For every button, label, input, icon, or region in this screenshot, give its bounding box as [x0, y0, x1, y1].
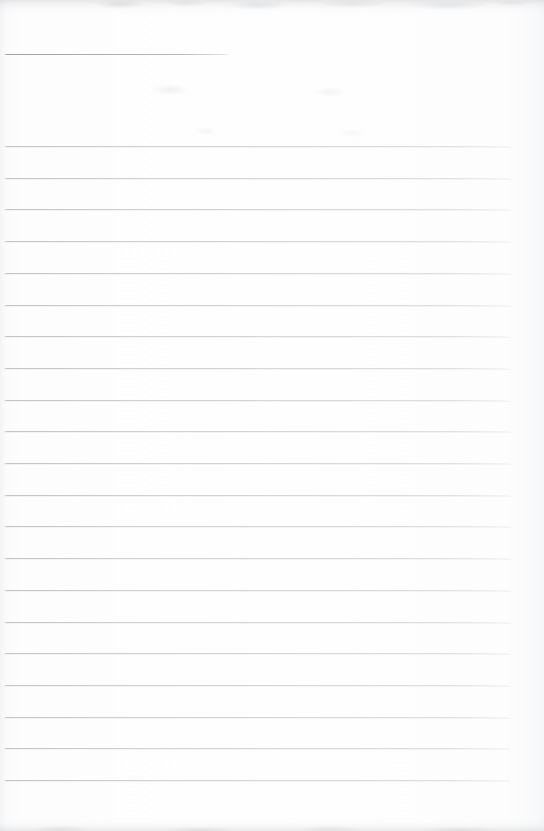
ruled-line: [4, 495, 511, 496]
ruled-line: [4, 526, 511, 527]
ruled-line: [4, 590, 511, 591]
ruled-line: [4, 305, 511, 306]
ruled-line: [4, 368, 511, 369]
ruled-line: [4, 400, 511, 401]
ruled-line: [4, 273, 511, 274]
ruled-line: [4, 241, 511, 242]
ruled-line: [4, 653, 511, 654]
ruled-line: [4, 558, 511, 559]
scan-artifact-top-edge: [0, 0, 544, 16]
ruled-line: [4, 463, 511, 464]
ruled-line: [4, 717, 511, 718]
ruled-line: [4, 685, 511, 686]
scan-artifact-bottom-edge: [0, 817, 544, 831]
paper-background: [0, 0, 544, 831]
header-rule: [4, 54, 230, 55]
scanned-page: [0, 0, 544, 831]
ruled-line: [4, 622, 511, 623]
ruled-line: [4, 146, 511, 147]
ruled-line: [4, 748, 511, 749]
ruled-line: [4, 780, 511, 781]
ruled-line: [4, 431, 511, 432]
ruled-line: [4, 178, 511, 179]
ruled-line: [4, 336, 511, 337]
ruled-line: [4, 209, 511, 210]
